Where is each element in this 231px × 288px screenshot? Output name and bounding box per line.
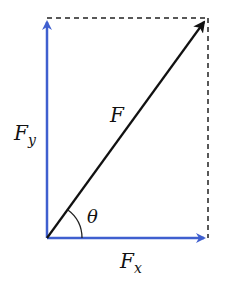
- fx-label: Fx: [119, 249, 142, 276]
- fx-label-sub: x: [134, 260, 142, 276]
- fy-label-main: F: [13, 121, 29, 145]
- fy-label: Fy: [13, 121, 37, 148]
- fy-label-sub: y: [27, 132, 37, 148]
- angle-arc: [68, 210, 82, 238]
- f-label: F: [109, 103, 125, 127]
- force-diagram: F Fy θ Fx: [0, 0, 231, 288]
- fx-label-main: F: [119, 249, 135, 273]
- f-resultant-arrow: [47, 22, 204, 238]
- theta-label: θ: [87, 206, 98, 227]
